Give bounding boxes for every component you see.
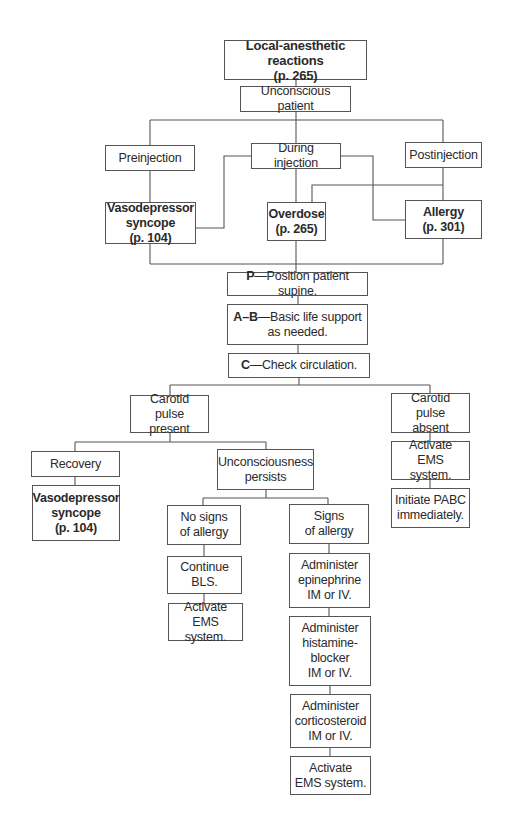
activate-ems-text-bottom: Activate EMS system. bbox=[295, 761, 366, 791]
overdose-box: Overdose (p. 265) bbox=[267, 202, 326, 241]
initiate-pabc-text: Initiate PABC immediately. bbox=[395, 493, 466, 523]
vasodepressor-syncope-text-bottom: Vasodepressor syncope (p. 104) bbox=[32, 491, 119, 536]
administer-epinephrine-text: Administer epinephrine IM or IV. bbox=[298, 558, 361, 603]
carotid-pulse-present-box: Carotid pulse present bbox=[130, 395, 209, 433]
activate-ems-text-left: Activate EMS system. bbox=[172, 600, 239, 645]
preinjection-box: Preinjection bbox=[105, 145, 195, 171]
administer-corticosteroid-text: Administer corticosteroid IM or IV. bbox=[295, 699, 367, 744]
no-signs-of-allergy-text: No signs of allergy bbox=[180, 510, 229, 540]
continue-bls-text: Continue BLS. bbox=[180, 560, 228, 590]
vasodepressor-syncope-text-top: Vasodepressor syncope (p. 104) bbox=[107, 201, 194, 246]
unconsciousness-persists-box: Unconsciousness persists bbox=[217, 449, 314, 490]
during-injection-box: During injection bbox=[251, 143, 341, 169]
step-c-box: C—Check circulation. bbox=[228, 353, 370, 378]
no-signs-of-allergy-box: No signs of allergy bbox=[167, 505, 241, 545]
continue-bls-box: Continue BLS. bbox=[167, 556, 242, 594]
vasodepressor-syncope-box-top: Vasodepressor syncope (p. 104) bbox=[105, 202, 196, 244]
postinjection-text: Postinjection bbox=[409, 148, 477, 163]
overdose-text: Overdose (p. 265) bbox=[268, 207, 324, 237]
title-box: Local-anesthetic reactions (p. 265) bbox=[224, 40, 367, 80]
preinjection-text: Preinjection bbox=[119, 151, 182, 166]
activate-ems-box-right: Activate EMS system. bbox=[391, 441, 470, 480]
unconsciousness-persists-text: Unconsciousness persists bbox=[218, 455, 313, 485]
step-ab-key: A–B bbox=[233, 310, 257, 324]
during-injection-text: During injection bbox=[255, 141, 337, 171]
allergy-box: Allergy (p. 301) bbox=[405, 200, 482, 239]
step-p-text: —Position patient supine. bbox=[254, 269, 349, 298]
administer-corticosteroid-box: Administer corticosteroid IM or IV. bbox=[290, 694, 371, 748]
recovery-box: Recovery bbox=[31, 451, 120, 477]
administer-histamine-blocker-box: Administer histamine- blocker IM or IV. bbox=[289, 616, 371, 686]
signs-of-allergy-text: Signs of allergy bbox=[305, 509, 354, 539]
carotid-pulse-absent-box: Carotid pulse absent bbox=[391, 393, 470, 433]
carotid-pulse-present-text: Carotid pulse present bbox=[134, 392, 205, 437]
activate-ems-box-left: Activate EMS system. bbox=[168, 603, 243, 641]
step-p-box: P—Position patient supine. bbox=[227, 272, 368, 296]
administer-histamine-blocker-text: Administer histamine- blocker IM or IV. bbox=[301, 621, 358, 681]
recovery-text: Recovery bbox=[50, 457, 101, 472]
administer-epinephrine-box: Administer epinephrine IM or IV. bbox=[289, 553, 370, 608]
step-ab-text: —Basic life support as needed. bbox=[258, 310, 362, 339]
postinjection-box: Postinjection bbox=[405, 142, 482, 168]
vasodepressor-syncope-box-bottom: Vasodepressor syncope (p. 104) bbox=[32, 485, 120, 541]
activate-ems-box-bottom: Activate EMS system. bbox=[290, 756, 371, 795]
flowchart: Local-anesthetic reactions (p. 265) Unco… bbox=[0, 0, 506, 829]
allergy-text: Allergy (p. 301) bbox=[422, 205, 464, 235]
unconscious-patient-text: Unconscious patient bbox=[244, 84, 347, 114]
signs-of-allergy-box: Signs of allergy bbox=[289, 504, 369, 544]
step-c-text: —Check circulation. bbox=[250, 358, 357, 372]
unconscious-patient-box: Unconscious patient bbox=[240, 86, 351, 112]
step-ab-box: A–B—Basic life support as needed. bbox=[227, 304, 368, 345]
title-text: Local-anesthetic reactions (p. 265) bbox=[228, 38, 363, 83]
initiate-pabc-box: Initiate PABC immediately. bbox=[391, 488, 470, 528]
step-c-key: C bbox=[241, 358, 250, 372]
carotid-pulse-absent-text: Carotid pulse absent bbox=[395, 391, 466, 436]
activate-ems-text-right: Activate EMS system. bbox=[395, 438, 466, 483]
